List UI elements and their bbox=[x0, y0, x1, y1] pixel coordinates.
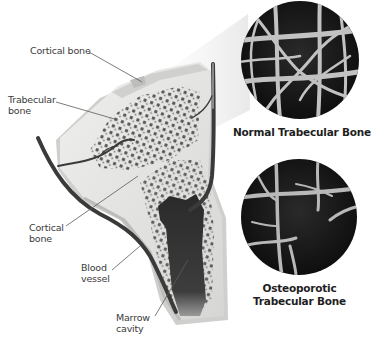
inset-osteoporotic-trabecular bbox=[240, 159, 360, 276]
label-text: vessel bbox=[81, 273, 110, 284]
label-blood-vessel: Blood vessel bbox=[81, 262, 110, 284]
leader-blood-vessel bbox=[112, 246, 140, 270]
label-text: bone bbox=[29, 233, 64, 244]
label-text: Cortical bbox=[29, 222, 64, 233]
label-cortical-bone-side: Cortical bone bbox=[29, 222, 64, 244]
label-text: Blood bbox=[81, 262, 110, 273]
label-text: Marrow bbox=[116, 312, 150, 323]
label-marrow-cavity: Marrow cavity bbox=[116, 312, 150, 334]
label-text: Trabecular bbox=[8, 94, 56, 105]
caption-text: Osteoporotic bbox=[232, 282, 367, 295]
leader-cortical-top bbox=[89, 52, 142, 82]
caption-osteoporotic-trabecular-bone: Osteoporotic Trabecular Bone bbox=[232, 282, 367, 308]
inset-normal-trabecular bbox=[240, 0, 360, 120]
label-text: Cortical bone bbox=[30, 45, 91, 56]
bone bbox=[56, 62, 228, 325]
label-text: cavity bbox=[116, 323, 150, 334]
label-cortical-bone-top: Cortical bone bbox=[30, 45, 91, 56]
label-text: bone bbox=[8, 105, 56, 116]
caption-text: Normal Trabecular Bone bbox=[232, 126, 372, 139]
caption-normal-trabecular-bone: Normal Trabecular Bone bbox=[232, 126, 372, 139]
label-trabecular-bone: Trabecular bone bbox=[8, 94, 56, 116]
caption-text: Trabecular Bone bbox=[232, 295, 367, 308]
